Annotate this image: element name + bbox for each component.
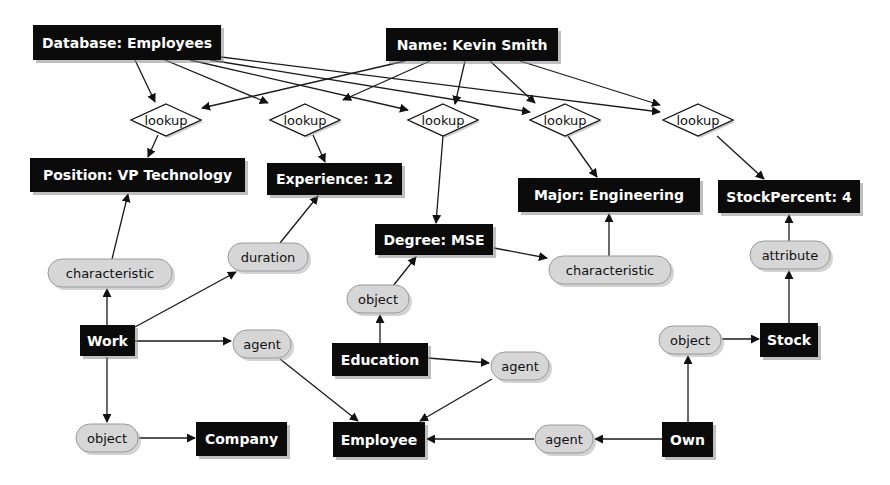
relation-label: object bbox=[87, 431, 127, 446]
rect-node-stockpct[interactable]: StockPercent: 4 bbox=[718, 180, 863, 216]
concept-label: Work bbox=[87, 333, 128, 349]
concept-label: Position: VP Technology bbox=[43, 167, 232, 183]
oval-node-char1[interactable]: characteristic bbox=[48, 259, 175, 290]
rect-node-db[interactable]: Database: Employees bbox=[33, 25, 224, 63]
actor-label: lookup bbox=[676, 113, 719, 128]
rect-node-name[interactable]: Name: Kevin Smith bbox=[386, 28, 561, 64]
oval-node-agent_o[interactable]: agent bbox=[535, 425, 596, 456]
oval-node-obj_own[interactable]: object bbox=[659, 326, 724, 357]
concept-label: Education bbox=[341, 352, 419, 368]
relation-label: duration bbox=[241, 250, 296, 265]
rect-node-position[interactable]: Position: VP Technology bbox=[30, 158, 248, 195]
concept-label: Experience: 12 bbox=[276, 171, 393, 187]
edge-lk5-to-stockpct bbox=[717, 136, 764, 179]
concept-label: Major: Engineering bbox=[534, 187, 684, 203]
relation-label: agent bbox=[545, 432, 583, 447]
diamond-node-lk3[interactable]: lookup bbox=[408, 104, 480, 138]
conceptual-graph-diagram: Database: EmployeesName: Kevin Smithlook… bbox=[0, 0, 890, 485]
diamond-node-lk1[interactable]: lookup bbox=[131, 104, 203, 138]
edge-lk4-to-major bbox=[568, 136, 597, 177]
rect-node-major[interactable]: Major: Engineering bbox=[518, 178, 703, 215]
edge-db-to-lk1 bbox=[135, 60, 155, 102]
concept-label: Company bbox=[205, 431, 278, 447]
diamond-node-lk5[interactable]: lookup bbox=[663, 104, 735, 138]
relation-label: object bbox=[358, 292, 398, 307]
edge-lk3-to-degree bbox=[436, 136, 443, 223]
edge-agent_e-to-employee bbox=[420, 379, 492, 421]
edge-name-to-lk1 bbox=[202, 61, 405, 108]
edge-name-to-lk3 bbox=[455, 61, 465, 104]
relation-label: agent bbox=[243, 337, 281, 352]
edge-obj_edu-to-degree bbox=[393, 257, 416, 286]
relation-label: object bbox=[670, 333, 710, 348]
rect-node-company[interactable]: Company bbox=[196, 422, 290, 459]
oval-node-agent_w[interactable]: agent bbox=[233, 330, 294, 361]
concept-label: Own bbox=[670, 432, 705, 448]
edge-name-to-lk5 bbox=[520, 61, 660, 105]
rect-node-employee[interactable]: Employee bbox=[333, 422, 428, 460]
actor-label: lookup bbox=[543, 113, 586, 128]
concept-label: Employee bbox=[341, 432, 418, 448]
relation-label: characteristic bbox=[66, 266, 155, 281]
edge-char1-to-position bbox=[112, 194, 128, 259]
relation-label: characteristic bbox=[566, 263, 655, 278]
oval-node-duration[interactable]: duration bbox=[228, 243, 311, 274]
oval-node-obj_work[interactable]: object bbox=[76, 424, 141, 455]
rect-node-own[interactable]: Own bbox=[662, 422, 716, 460]
edge-duration-to-exp bbox=[280, 196, 318, 243]
actor-label: lookup bbox=[283, 113, 326, 128]
concept-label: Degree: MSE bbox=[383, 232, 484, 248]
edge-db-to-lk4 bbox=[210, 60, 530, 112]
concept-label: Database: Employees bbox=[42, 35, 212, 51]
relation-label: attribute bbox=[762, 248, 819, 263]
rect-node-stock[interactable]: Stock bbox=[760, 323, 821, 360]
rect-node-work[interactable]: Work bbox=[80, 325, 138, 359]
rect-node-exp[interactable]: Experience: 12 bbox=[267, 163, 405, 198]
oval-node-obj_edu[interactable]: object bbox=[347, 285, 412, 316]
actor-label: lookup bbox=[421, 113, 464, 128]
oval-node-char2[interactable]: characteristic bbox=[549, 256, 674, 287]
edge-lk1-to-position bbox=[148, 135, 158, 157]
oval-node-agent_e[interactable]: agent bbox=[491, 352, 552, 383]
relation-label: agent bbox=[501, 359, 539, 374]
edge-lk2-to-exp bbox=[313, 135, 325, 162]
nodes-layer: Database: EmployeesName: Kevin Smithlook… bbox=[30, 25, 863, 460]
rect-node-degree[interactable]: Degree: MSE bbox=[375, 224, 496, 258]
rect-node-education[interactable]: Education bbox=[332, 343, 431, 379]
concept-label: Stock bbox=[767, 332, 812, 348]
edge-degree-to-char2 bbox=[494, 248, 547, 258]
actor-label: lookup bbox=[144, 113, 187, 128]
diamond-node-lk4[interactable]: lookup bbox=[530, 104, 602, 138]
concept-label: Name: Kevin Smith bbox=[397, 37, 548, 53]
diamond-node-lk2[interactable]: lookup bbox=[270, 104, 342, 138]
edge-education-to-agent_e bbox=[428, 358, 489, 363]
oval-node-attribute[interactable]: attribute bbox=[750, 241, 833, 272]
edge-name-to-lk4 bbox=[490, 61, 535, 103]
concept-label: StockPercent: 4 bbox=[726, 189, 852, 205]
